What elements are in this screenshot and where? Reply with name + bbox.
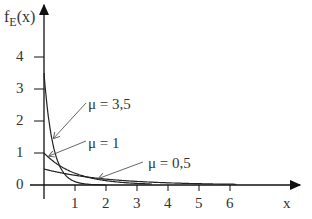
x-tick-label: 5 [195, 196, 203, 211]
annotation-label: μ = 3,5 [88, 97, 131, 112]
y-tick-label: 4 [16, 49, 24, 64]
x-tick-label: 2 [102, 196, 110, 211]
x-tick-label: 4 [164, 196, 172, 211]
exponential-density-chart [0, 0, 312, 219]
curves [44, 73, 236, 185]
x-tick-label: 1 [71, 196, 79, 211]
curve-mu-3.5 [44, 73, 105, 185]
annotation-label: μ = 0,5 [148, 156, 191, 171]
y-axis-title: fE(x) [4, 8, 35, 30]
curve-mu-1 [44, 153, 152, 184]
curve-mu-0.5 [44, 169, 236, 184]
y-tick-label: 3 [16, 81, 24, 96]
x-axis-title: x [283, 196, 291, 211]
y-tick-label: 1 [16, 145, 24, 160]
y-tick-label: 2 [16, 113, 24, 128]
x-tick-label: 3 [133, 196, 141, 211]
x-tick-label: 6 [226, 196, 234, 211]
annotation-arrow [98, 162, 143, 179]
annotation-arrow [53, 103, 86, 139]
y-tick-label: 0 [16, 177, 24, 192]
annotation-label: μ = 1 [88, 136, 120, 151]
